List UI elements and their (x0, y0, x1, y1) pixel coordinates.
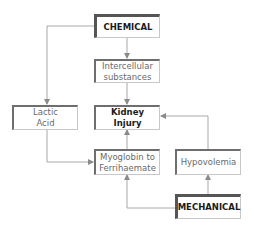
diagram-canvas: CHEMICAL Intercellular substances Lactic… (0, 0, 254, 228)
node-mechanical-label: MECHANICAL (178, 202, 241, 213)
node-lactic-acid: Lactic Acid (12, 105, 78, 130)
node-myoglobin-ferrihaemate: Myoglobin to Ferrihaemate (94, 149, 160, 175)
node-lactic-line1: Lactic (33, 107, 58, 118)
node-lactic-line2: Acid (36, 118, 54, 129)
node-intercellular-substances: Intercellular substances (94, 59, 160, 83)
edge-hypovolemia-kidney (161, 116, 208, 149)
node-myoglobin-line2: Ferrihaemate (99, 163, 156, 174)
edge-lactic-myoglobin (47, 130, 93, 162)
edge-chemical-lactic (47, 26, 94, 104)
edge-mechanical-myoglobin (127, 175, 175, 208)
node-hypovolemia: Hypovolemia (175, 149, 241, 175)
node-kidney-label: Kidney Injury (96, 107, 159, 129)
node-myoglobin-line1: Myoglobin to (100, 152, 155, 163)
node-hypovolemia-label: Hypovolemia (181, 157, 237, 168)
node-intercellular-line2: substances (104, 72, 152, 83)
node-kidney-injury: Kidney Injury (94, 105, 160, 130)
node-intercellular-line1: Intercellular (102, 61, 153, 72)
node-chemical: CHEMICAL (94, 14, 160, 38)
node-mechanical: MECHANICAL (175, 194, 241, 219)
node-chemical-label: CHEMICAL (103, 22, 152, 33)
